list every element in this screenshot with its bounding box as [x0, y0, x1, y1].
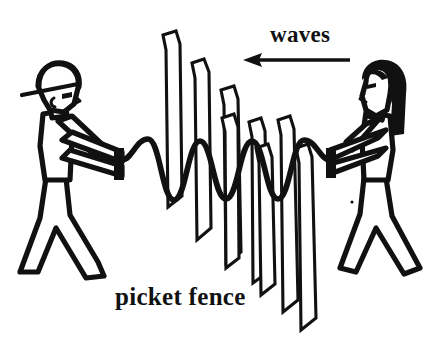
physics-illustration: waves picket fence: [0, 0, 443, 355]
picket-fence-label: picket fence: [115, 283, 246, 310]
scan-speck: [350, 200, 353, 203]
left-person-hand: [114, 148, 124, 180]
right-person-hand: [326, 148, 336, 178]
illustration-canvas: waves picket fence: [0, 0, 443, 355]
waves-label: waves: [270, 22, 330, 47]
